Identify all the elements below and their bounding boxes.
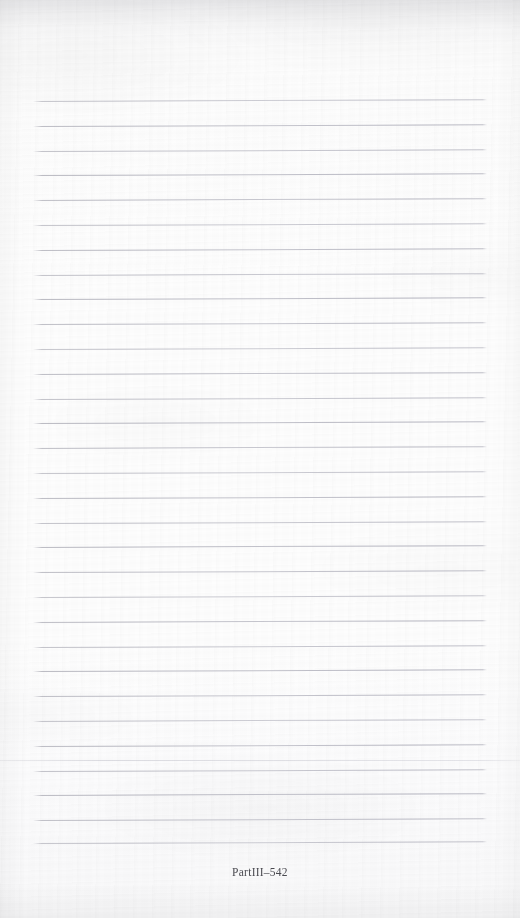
scanned-page: PartIII–542 — [0, 0, 520, 918]
page-folio-label: PartIII–542 — [0, 866, 520, 878]
paper-edge-vignette — [0, 0, 520, 918]
